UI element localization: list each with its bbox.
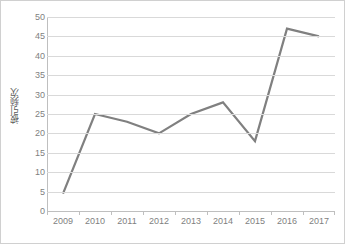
x-axis-tick-label: 2013	[181, 217, 201, 226]
gridline	[47, 75, 335, 76]
y-axis-tick-label: 35	[35, 71, 45, 80]
x-axis-tickmark	[334, 211, 335, 215]
x-axis-tick-label: 2009	[53, 217, 73, 226]
gridline	[47, 172, 335, 173]
plot-area	[47, 17, 335, 211]
gridline	[47, 36, 335, 37]
gridline	[47, 95, 335, 96]
x-axis-tick-label: 2012	[149, 217, 169, 226]
y-axis-title-label: 被引频次	[10, 88, 19, 124]
x-axis-tickmark	[207, 211, 208, 215]
x-axis-tick-label: 2014	[213, 217, 233, 226]
x-axis-tickmark	[143, 211, 144, 215]
x-axis-tickmark	[175, 211, 176, 215]
gridline	[47, 153, 335, 154]
y-axis-tick-label: 0	[40, 207, 45, 216]
x-axis-tickmark	[111, 211, 112, 215]
gridline	[47, 133, 335, 134]
x-axis-tickmark	[271, 211, 272, 215]
y-axis-tick-label: 15	[35, 148, 45, 157]
y-axis-tick-label: 50	[35, 13, 45, 22]
y-axis-tick-labels: 05101520253035404550	[19, 1, 45, 244]
x-axis-tick-label: 2010	[85, 217, 105, 226]
y-axis-tick-label: 40	[35, 51, 45, 60]
y-axis-tick-label: 25	[35, 110, 45, 119]
x-axis-tick-label: 2015	[245, 217, 265, 226]
x-axis-tickmark	[303, 211, 304, 215]
gridline	[47, 56, 335, 57]
gridline	[47, 114, 335, 115]
y-axis-tick-label: 20	[35, 129, 45, 138]
line-chart: 被引频次 05101520253035404550 20092010201120…	[0, 0, 345, 244]
data-series-line	[63, 29, 319, 194]
x-axis-tickmark	[47, 211, 48, 215]
y-axis-tick-label: 10	[35, 168, 45, 177]
gridline	[47, 192, 335, 193]
x-axis-tick-labels: 200920102011201220132014201520162017	[47, 217, 335, 239]
x-axis-tick-label: 2011	[117, 217, 136, 226]
x-axis-tick-label: 2016	[277, 217, 297, 226]
y-axis-title: 被引频次	[3, 1, 25, 211]
y-axis-tick-label: 30	[35, 90, 45, 99]
gridline	[47, 17, 335, 18]
x-axis-tickmark	[79, 211, 80, 215]
y-axis-tick-label: 45	[35, 32, 45, 41]
x-axis-tick-label: 2017	[309, 217, 329, 226]
y-axis-tick-label: 5	[40, 187, 45, 196]
x-axis-tickmark	[239, 211, 240, 215]
